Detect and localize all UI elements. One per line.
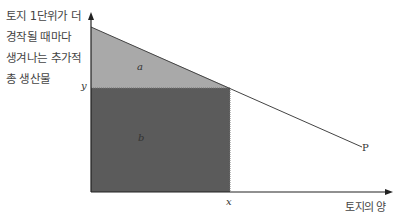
area-b	[91, 88, 230, 192]
x-tick-label: x	[226, 196, 232, 207]
diagram-canvas	[0, 0, 415, 217]
y-axis-arrow-icon	[88, 12, 94, 20]
area-b-label: b	[138, 132, 144, 143]
x-axis-title: 토지의 양	[345, 198, 386, 214]
x-axis-arrow-icon	[385, 189, 393, 195]
curve-label-p: P	[362, 142, 369, 153]
y-tick-label: y	[81, 80, 87, 91]
area-a-label: a	[137, 61, 143, 72]
